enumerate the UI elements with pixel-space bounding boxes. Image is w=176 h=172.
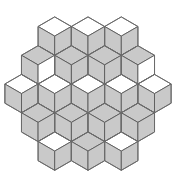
- tiling-figure: [0, 0, 176, 172]
- rhombille-tiling-svg: [0, 0, 176, 172]
- hexagon-cells-layer: [5, 17, 171, 170]
